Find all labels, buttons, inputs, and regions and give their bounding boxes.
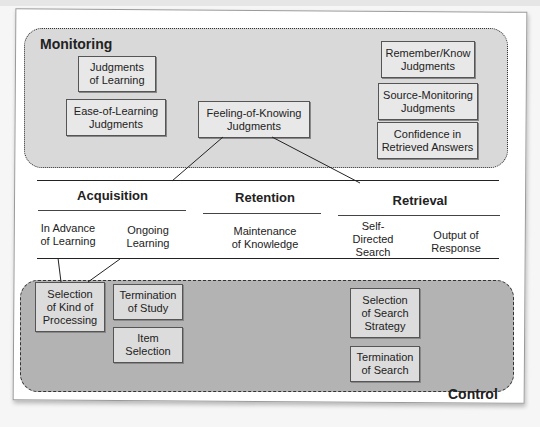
connector-lines (0, 0, 540, 427)
